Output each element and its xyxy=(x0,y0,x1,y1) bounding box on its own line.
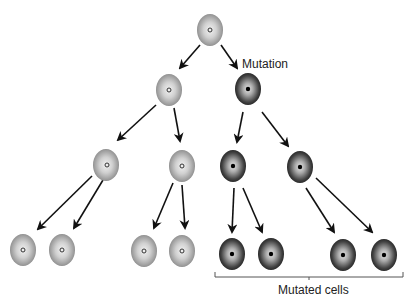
arrow-n2-to-n3b xyxy=(174,108,180,141)
arrow-m2-to-m3b xyxy=(262,112,288,146)
cell-mutated xyxy=(235,73,261,105)
cell-normal xyxy=(10,234,36,266)
cell-mutated xyxy=(330,239,356,271)
arrow-m3b-to-m4c xyxy=(306,188,334,232)
cell-mutated xyxy=(220,150,246,182)
cell-mutated xyxy=(219,238,245,270)
cell-normal xyxy=(169,235,195,267)
mutated-cells-label: Mutated cells xyxy=(278,283,349,297)
mutated-cells-bracket xyxy=(215,272,403,280)
arrow-m3a-to-m4b xyxy=(243,188,262,232)
cell-normal xyxy=(169,150,195,182)
cell-lineage-diagram: Mutation Mutated cells xyxy=(0,0,413,299)
arrow-m3b-to-m4d xyxy=(316,178,372,232)
cell-normal xyxy=(93,149,119,181)
arrow-n2-to-n3a xyxy=(118,105,156,140)
arrow-root-to-m2 xyxy=(221,45,237,68)
arrow-m3a-to-m4a xyxy=(232,188,234,232)
arrow-root-to-n2 xyxy=(180,45,200,68)
cell-mutated xyxy=(287,151,313,183)
cell-normal xyxy=(156,74,182,106)
arrows xyxy=(38,45,372,232)
cell-mutated xyxy=(258,238,284,270)
arrow-n3a-to-n4b xyxy=(74,180,103,228)
arrow-n3b-to-n4c xyxy=(154,183,173,228)
arrow-n3a-to-n4a xyxy=(38,176,92,229)
arrow-n3b-to-n4d xyxy=(182,185,185,228)
mutation-label: Mutation xyxy=(242,57,288,71)
mutated-cells xyxy=(219,73,397,271)
arrow-m2-to-m3a xyxy=(237,112,243,142)
cell-mutated xyxy=(371,239,397,271)
cell-normal xyxy=(49,234,75,266)
cell-root xyxy=(197,14,223,46)
normal-cells xyxy=(10,14,223,267)
cell-normal xyxy=(131,235,157,267)
